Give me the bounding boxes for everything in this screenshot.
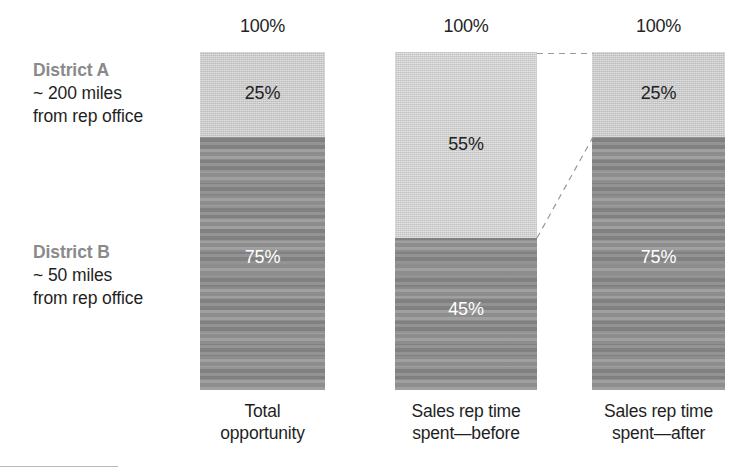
bar-stack-2: 55% 45% [395, 52, 537, 390]
bar-segment-value-a-2: 55% [395, 134, 537, 155]
row-label-district-a-line3: from rep office [33, 105, 193, 128]
bar-segment-district-b-1[interactable]: 75% [200, 137, 325, 390]
bar-caption-3: Sales rep time spent—after [564, 400, 754, 444]
bar-total-label-1: 100% [200, 16, 325, 37]
bar-segment-value-b-2: 45% [395, 299, 537, 320]
bar-segment-district-a-3[interactable]: 25% [592, 52, 725, 137]
bar-stack-1: 25% 75% [200, 52, 325, 390]
bar-segment-value-a-1: 25% [200, 83, 325, 104]
row-label-district-a: District A ~ 200 miles from rep office [33, 59, 193, 128]
bar-column-time-spent-after: 100% 25% 75% Sales rep time spent—after [592, 52, 725, 390]
bar-segment-value-b-3: 75% [592, 247, 725, 268]
row-label-district-b-line3: from rep office [33, 287, 193, 310]
bar-caption-1: Total opportunity [168, 400, 358, 444]
row-label-district-a-line2: ~ 200 miles [33, 82, 193, 105]
stacked-bar-chart: District A ~ 200 miles from rep office D… [0, 0, 755, 475]
bar-total-label-3: 100% [592, 16, 725, 37]
row-label-district-a-title: District A [33, 59, 193, 82]
bar-column-total-opportunity: 100% 25% 75% Total opportunity [200, 52, 325, 390]
bar-stack-3: 25% 75% [592, 52, 725, 390]
bar-column-time-spent-before: 100% 55% 45% Sales rep time spent—before [395, 52, 537, 390]
bar-segment-district-b-2[interactable]: 45% [395, 238, 537, 390]
connector-line-split [537, 137, 593, 238]
bar-total-label-2: 100% [395, 16, 537, 37]
bar-segment-district-a-1[interactable]: 25% [200, 52, 325, 137]
bar-segment-district-a-2[interactable]: 55% [395, 52, 537, 238]
bar-caption-2: Sales rep time spent—before [371, 400, 561, 444]
footer-divider [0, 466, 118, 467]
row-label-district-b-title: District B [33, 241, 193, 264]
bar-segment-value-b-1: 75% [200, 247, 325, 268]
bar-segment-district-b-3[interactable]: 75% [592, 137, 725, 390]
row-label-district-b-line2: ~ 50 miles [33, 264, 193, 287]
bar-segment-value-a-3: 25% [592, 83, 725, 104]
row-label-district-b: District B ~ 50 miles from rep office [33, 241, 193, 310]
